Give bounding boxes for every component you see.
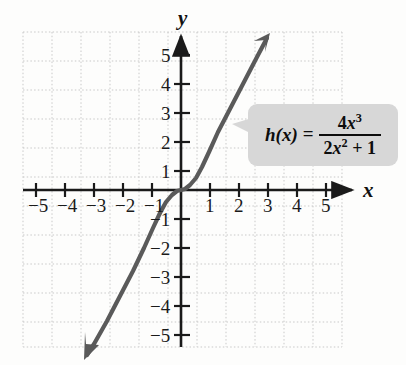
y-tick-label: 1 [161,162,171,181]
y-tick-label: −2 [150,239,170,258]
coordinate-plane [0,0,406,365]
function-callout: h(x) = 4x3 2x2 + 1 [248,104,398,166]
x-axis-label: x [363,180,374,201]
x-tick-label: −5 [28,196,48,215]
denominator-coefficient: 2 [324,138,333,158]
y-axis-label: y [178,8,187,29]
fraction-denominator: 2x2 + 1 [319,136,381,158]
denominator-variable: x [333,138,342,158]
denominator-constant: 1 [367,138,376,158]
y-tick-label: 2 [161,133,171,152]
x-tick-label: −4 [57,196,77,215]
y-tick-label: −1 [150,210,170,229]
denominator-plus-sign: + [352,138,362,158]
y-tick-label: −4 [150,297,170,316]
fraction-numerator: 4x3 [333,112,367,134]
numerator-coefficient: 4 [338,113,347,133]
x-tick-label: −3 [86,196,106,215]
y-tick-label: 3 [161,104,171,123]
graph-figure: y x −5 −4 −3 −2 −1 1 2 3 4 5 5 4 3 2 1 −… [0,0,406,365]
numerator-exponent: 3 [356,111,362,125]
x-tick-label: 1 [205,196,215,215]
numerator-variable: x [347,113,356,133]
x-tick-label: 2 [234,196,244,215]
x-tick-label: 5 [321,196,331,215]
equals-sign: = [303,123,314,147]
denominator-exponent: 2 [342,136,348,150]
y-tick-label: 5 [161,46,171,65]
y-tick-label: 4 [161,75,171,94]
fraction: 4x3 2x2 + 1 [319,112,381,158]
x-tick-label: 3 [263,196,273,215]
y-tick-label: −3 [150,268,170,287]
function-formula: h(x) = 4x3 2x2 + 1 [248,104,398,166]
x-tick-label: 4 [292,196,302,215]
y-tick-label: −5 [150,326,170,345]
x-tick-label: −2 [115,196,135,215]
function-name: h(x) [265,124,298,146]
